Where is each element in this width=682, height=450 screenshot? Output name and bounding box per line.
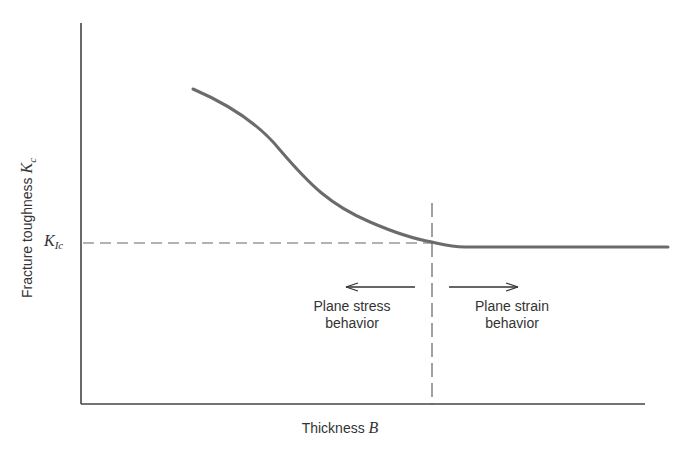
x-axis-label: Thickness B — [240, 419, 440, 437]
plane-stress-annotation: Plane stress behavior — [298, 298, 406, 332]
chart-canvas — [0, 0, 682, 450]
y-axis-label-symbol: Kc — [18, 158, 35, 174]
toughness-curve — [193, 89, 668, 247]
y-axis-label: Fracture toughness Kc — [18, 158, 38, 298]
plane-stress-arrow-icon — [346, 283, 415, 291]
plane-strain-arrow-icon — [449, 283, 518, 291]
plane-strain-annotation: Plane strain behavior — [458, 298, 566, 332]
kic-tick-label: KIc — [44, 232, 63, 251]
y-axis-label-text: Fracture toughness — [19, 177, 35, 298]
